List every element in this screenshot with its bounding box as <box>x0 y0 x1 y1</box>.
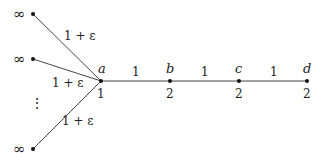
node-c-name: c <box>235 61 243 76</box>
node-b <box>168 79 172 83</box>
node-d <box>305 79 309 83</box>
node-b-value: 2 <box>166 87 174 101</box>
edge-inf1-a <box>33 14 101 81</box>
node-inf1-label: ∞ <box>13 5 26 23</box>
node-c <box>237 79 241 83</box>
node-inf1 <box>31 12 35 16</box>
node-inf2-label: ∞ <box>13 50 26 68</box>
node-d-value: 2 <box>303 87 311 101</box>
node-b-name: b <box>166 61 174 76</box>
node-inf3-label: ∞ <box>13 140 26 158</box>
node-a <box>99 79 103 83</box>
node-c-value: 2 <box>235 87 243 101</box>
edge-b-c-weight: 1 <box>201 65 209 79</box>
node-a-name: a <box>98 61 106 76</box>
edge-inf2-a-weight: 1 + ε <box>52 76 84 90</box>
edge-inf3-a-weight: 1 + ε <box>62 114 94 128</box>
node-inf2 <box>31 57 35 61</box>
edge-inf1-a-weight: 1 + ε <box>64 29 96 43</box>
node-d-name: d <box>303 61 311 76</box>
node-a-value: 1 <box>97 87 105 101</box>
edge-a-b-weight: 1 <box>132 65 140 79</box>
edge-c-d-weight: 1 <box>270 65 278 79</box>
ellipsis: ⋮ <box>30 95 44 111</box>
node-inf3 <box>31 147 35 151</box>
graph-diagram: ∞ ∞ ∞ ⋮ 1 + ε 1 + ε 1 + ε 1 1 1 a b c d … <box>0 0 324 161</box>
